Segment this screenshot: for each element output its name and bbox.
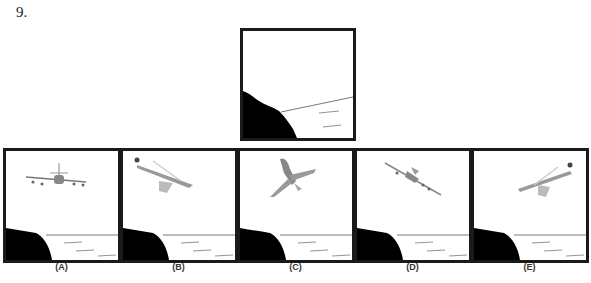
option-c-label: (C) xyxy=(237,262,354,272)
option-d-label: (D) xyxy=(354,262,471,272)
option-b-label: (B) xyxy=(120,262,237,272)
plane-front-view-icon xyxy=(6,151,118,260)
option-e-figure[interactable] xyxy=(471,148,589,263)
option-e-label: (E) xyxy=(471,262,588,272)
plane-banking-left-icon xyxy=(123,151,235,260)
cliff-sea-icon xyxy=(243,31,353,138)
option-a-figure[interactable] xyxy=(3,148,121,263)
option-c-figure[interactable] xyxy=(237,148,355,263)
plane-banking-right-icon xyxy=(357,151,469,260)
plane-top-view-icon xyxy=(240,151,352,260)
question-number: 9. xyxy=(16,4,27,21)
plane-banking-left-mirrored-icon xyxy=(474,151,586,260)
problem-figure xyxy=(240,28,356,141)
option-d-figure[interactable] xyxy=(354,148,472,263)
option-b-figure[interactable] xyxy=(120,148,238,263)
option-a-label: (A) xyxy=(3,262,120,272)
